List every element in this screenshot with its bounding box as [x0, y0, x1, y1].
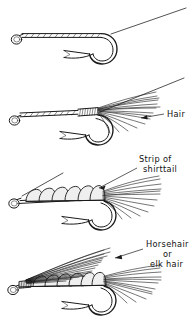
hook-eye-4 — [8, 285, 20, 295]
hook-bend-1 — [90, 34, 118, 64]
label-horsehair-line-3: elk hair — [150, 259, 184, 269]
tag-thread-line-1 — [111, 8, 186, 34]
label-horsehair-line-1: Horsehair — [146, 239, 189, 249]
label-strip-line-2: shirttail — [143, 164, 177, 174]
hair-tail-fibers-2 — [98, 92, 160, 133]
hook-eye-3 — [9, 198, 21, 208]
panel-1-thread-base — [11, 8, 186, 64]
hook-bend-4 — [89, 286, 117, 315]
hook-barb-4 — [62, 302, 92, 310]
hair-tail-fibers-4 — [104, 265, 161, 303]
hook-barb-2 — [60, 132, 89, 140]
hook-barb-3 — [62, 217, 92, 225]
hook-bend-3 — [89, 201, 117, 230]
panel-3-shirttail-body: Strip of shirttail — [9, 154, 177, 230]
hook-eye-1 — [11, 34, 23, 44]
panel-2-tie-in-hair: Hair — [9, 78, 185, 145]
label-horsehair-line-2: or — [163, 249, 172, 259]
body-segments-3 — [26, 186, 105, 202]
hook-barb-1 — [64, 51, 93, 59]
callout-strip-of-shirttail: Strip of shirttail — [99, 154, 177, 190]
hook-eye-2 — [9, 115, 21, 125]
label-hair: Hair — [167, 109, 185, 119]
panel-4-add-wing: Horsehair or elk hair — [8, 239, 189, 315]
label-strip-line-1: Strip of — [139, 154, 172, 164]
callout-hair: Hair — [141, 109, 185, 120]
thread-wraps-1 — [25, 34, 100, 38]
hook-bend-2 — [86, 115, 114, 145]
hook-shank-2 — [20, 110, 78, 116]
callout-horsehair-or-elk-hair: Horsehair or elk hair — [115, 239, 189, 269]
fly-tying-figure: Hair — [0, 0, 194, 329]
diagram-canvas: Hair — [0, 0, 194, 329]
thread-collar-2 — [78, 108, 98, 116]
